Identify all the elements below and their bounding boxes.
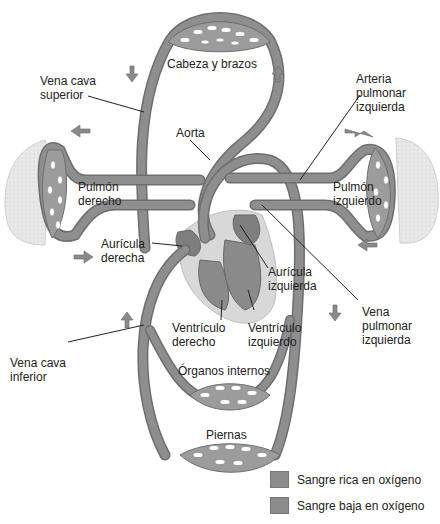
capillary-bed-legs — [180, 444, 280, 473]
arrow-right-lower-left-icon — [74, 251, 93, 263]
legend-label-oxygen-poor: Sangre baja en oxígeno — [297, 499, 424, 513]
label-organos-internos: Órganos internos — [178, 364, 270, 378]
label-pulmon-derecho: Pulmón derecho — [78, 180, 121, 208]
legend-swatch-oxygen-rich — [270, 471, 289, 488]
label-cabeza-brazos: Cabeza y brazos — [167, 57, 257, 71]
arrow-right-upper-right-icon — [345, 129, 373, 137]
legend-item-oxygen-poor: Sangre baja en oxígeno — [270, 497, 424, 514]
legend-item-oxygen-rich: Sangre rica en oxígeno — [270, 471, 421, 488]
legend-label-oxygen-rich: Sangre rica en oxígeno — [297, 473, 421, 487]
label-auricula-izquierda: Aurícula izquierda — [268, 265, 317, 293]
label-vena-cava-superior: Vena cava superior — [40, 74, 96, 102]
label-pulmon-izquierdo: Pulmón izquierdo — [333, 180, 382, 208]
left-lung-shape — [395, 138, 438, 243]
legend-swatch-oxygen-poor — [270, 497, 289, 514]
label-ventriculo-izquierdo: Ventrículo izquierdo — [248, 321, 301, 349]
label-piernas: Piernas — [206, 428, 247, 442]
label-vena-pulmonar-izquierda: Vena pulmonar izquierda — [362, 305, 412, 347]
label-auricula-derecha: Aurícula derecha — [101, 237, 145, 265]
arrow-down-lower-right-icon — [329, 305, 341, 321]
arrow-left-upper-left-icon — [71, 125, 90, 137]
label-ventriculo-derecho: Ventrículo derecho — [172, 321, 225, 349]
label-vena-cava-inferior: Vena cava inferior — [10, 356, 66, 384]
label-arteria-pulmonar-izquierda: Arteria pulmonar izquierda — [356, 72, 406, 114]
arrow-down-upper-left-icon — [126, 66, 138, 82]
arrow-up-lower-left-icon — [121, 312, 133, 328]
heart — [176, 210, 277, 323]
label-aorta: Aorta — [176, 126, 205, 140]
